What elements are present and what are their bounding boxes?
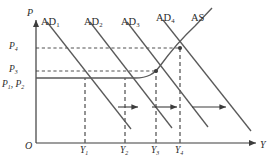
price-label-p4: P4	[9, 42, 18, 52]
curve-label-ad3-sub: 3	[136, 21, 139, 28]
output-label-y4: Y4	[175, 146, 183, 156]
curve-label-ad3-base: AD	[121, 16, 136, 27]
curve-label-ad2: AD2	[84, 17, 103, 28]
output-axis-label: Y	[260, 140, 266, 150]
price-label-p3-sub: 3	[15, 69, 18, 75]
curve-label-ad4-base: AD	[156, 12, 171, 23]
output-label-y3-sub: 3	[156, 150, 159, 156]
curve-label-ad2-sub: 2	[99, 21, 102, 28]
price-label-p2-base: , P	[11, 79, 22, 89]
price-label-p1-base: P	[2, 79, 8, 89]
price-label-p2-sub: 2	[21, 84, 24, 90]
ad4-curve	[163, 20, 251, 131]
curve-label-ad4: AD4	[156, 13, 175, 24]
price-label-p4-sub: 4	[15, 46, 18, 52]
curve-label-ad3: AD3	[121, 17, 140, 28]
price-label-p1-p2: P1, P2	[2, 80, 24, 90]
curve-label-as: AS	[191, 13, 204, 24]
price-label-p1-sub: 1	[8, 84, 11, 90]
output-label-y1-sub: 1	[85, 150, 88, 156]
ad-as-diagram: P Y O P4 P3 P1, P2 Y1 Y2 Y3 Y4 AD1 AD2 A…	[0, 0, 272, 168]
output-label-y1: Y1	[80, 146, 88, 156]
curve-label-ad2-base: AD	[84, 16, 99, 27]
price-label-p3-base: P	[9, 64, 15, 74]
ad2-curve	[90, 22, 172, 128]
output-label-y3: Y3	[151, 146, 159, 156]
curve-label-ad4-sub: 4	[171, 17, 174, 24]
price-label-p3: P3	[9, 65, 18, 75]
output-label-y2: Y2	[120, 146, 128, 156]
curve-label-ad1-sub: 1	[56, 21, 59, 28]
output-label-y2-sub: 2	[125, 150, 128, 156]
curve-label-ad1: AD1	[41, 17, 60, 28]
ad3-curve	[127, 22, 208, 127]
price-label-p4-base: P	[9, 41, 15, 51]
output-label-y4-sub: 4	[180, 150, 183, 156]
equilibrium-point-e4	[178, 46, 182, 50]
ad1-curve	[47, 22, 131, 129]
price-axis-label: P	[27, 8, 33, 18]
origin-label: O	[25, 141, 32, 151]
curve-label-ad1-base: AD	[41, 16, 56, 27]
equilibrium-point-e3	[154, 69, 158, 73]
